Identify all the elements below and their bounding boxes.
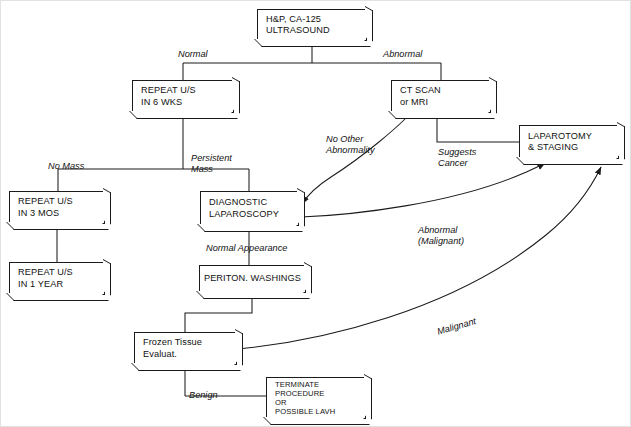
edge-label-suggests-cancer: Suggests Cancer (438, 147, 476, 169)
edge-label-abnormal: Abnormal (383, 49, 422, 60)
edge-label-benign: Benign (189, 390, 218, 401)
edge-label-abnormal-malignant: Abnormal (Malignant) (418, 225, 464, 247)
edge-no-other-abnormality (302, 118, 406, 204)
node-laparotomy-staging[interactable]: LAPAROTOMY & STAGING (519, 125, 619, 159)
edge-label-no-mass: No Mass (48, 161, 84, 172)
edge-label-no-other-abnormality: No Other Abnormality (326, 134, 375, 156)
edge-abnormal-malignant (301, 163, 545, 217)
node-label: REPEAT U/S IN 6 WKS (133, 85, 233, 108)
node-label: TERMINATE PROCEDURE OR POSSIBLE LAVH (267, 380, 365, 416)
node-label: H&P, CA-125 ULTRASOUND (258, 14, 366, 37)
node-label: Frozen Tissue Evaluat. (135, 337, 236, 360)
node-repeat-us-1year[interactable]: REPEAT U/S IN 1 YEAR (9, 262, 105, 295)
node-label: REPEAT U/S IN 3 MOS (10, 196, 104, 219)
node-hp-ultrasound[interactable]: H&P, CA-125 ULTRASOUND (257, 9, 367, 41)
node-ct-scan-mri[interactable]: CT SCAN or MRI (391, 80, 491, 113)
node-repeat-us-3mos[interactable]: REPEAT U/S IN 3 MOS (9, 191, 105, 224)
node-label: PERITON. WASHINGS (200, 273, 305, 284)
node-label: CT SCAN or MRI (392, 85, 490, 108)
edge-periton-frozen (185, 298, 252, 332)
node-frozen-tissue-evaluation[interactable]: Frozen Tissue Evaluat. (134, 332, 237, 365)
node-terminate-procedure[interactable]: TERMINATE PROCEDURE OR POSSIBLE LAVH (266, 377, 366, 419)
flowchart-canvas: H&P, CA-125 ULTRASOUND REPEAT U/S IN 6 W… (0, 0, 631, 427)
node-peritoneal-washings[interactable]: PERITON. WASHINGS (199, 265, 306, 293)
node-label: LAPAROTOMY & STAGING (520, 131, 618, 154)
node-label: REPEAT U/S IN 1 YEAR (10, 267, 104, 290)
edge-suggests-cancer (437, 118, 519, 142)
node-repeat-us-6wks[interactable]: REPEAT U/S IN 6 WKS (132, 80, 234, 113)
edge-label-persistent-mass: Persistent Mass (191, 153, 232, 175)
edge-label-normal: Normal (178, 49, 208, 60)
node-diagnostic-laparoscopy[interactable]: DIAGNOSTIC LAPAROSCOPY (200, 191, 299, 226)
edge-label-normal-appearance: Normal Appearance (206, 243, 287, 254)
node-label: DIAGNOSTIC LAPAROSCOPY (201, 197, 298, 220)
